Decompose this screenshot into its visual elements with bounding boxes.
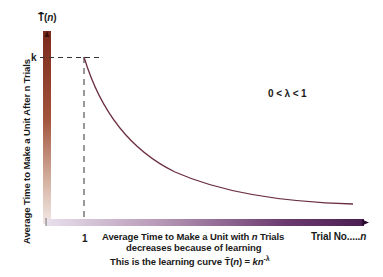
x-axis <box>46 219 364 226</box>
x-axis-title-text: Trial No..... <box>311 231 360 242</box>
y-axis <box>43 31 51 224</box>
caption-line-1b: Trials <box>258 231 285 242</box>
x-axis-arrow-icon <box>362 220 369 226</box>
y-axis-symbol: T̄(n) <box>38 12 57 23</box>
caption-line-3a: This is the learning curve T̄( <box>110 256 233 267</box>
lambda-range-annotation: 0 < λ < 1 <box>268 88 307 99</box>
caption-exponent: -λ <box>263 255 269 262</box>
caption-line-1a: Average Time to Make a Unit with <box>102 231 252 242</box>
y-axis-title: Average Time to Make a Unit After n Tria… <box>21 59 32 244</box>
x-tick-1: 1 <box>82 233 87 244</box>
y-symbol-close: ) <box>53 12 56 23</box>
caption-line-3: This is the learning curve T̄(n) = kn-λ <box>102 253 322 267</box>
caption-formula: kn <box>253 256 264 267</box>
x-axis-n: n <box>360 231 366 242</box>
caption-line-3b: ) = <box>239 256 253 267</box>
x-axis-title: Trial No.....n <box>311 231 366 242</box>
y-symbol-text: T̄( <box>38 12 47 23</box>
caption-line-1: Average Time to Make a Unit with n Trial… <box>102 231 322 242</box>
learning-curve <box>84 57 353 204</box>
caption: Average Time to Make a Unit with n Trial… <box>102 231 322 267</box>
caption-line-2: decreases because of learning <box>102 242 322 253</box>
